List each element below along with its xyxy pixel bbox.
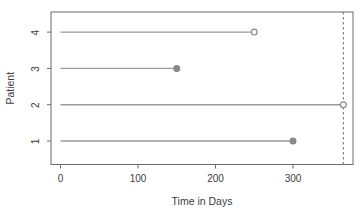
y-tick-label: 4 [30,29,41,35]
patient-marker-4-open [251,29,257,35]
x-tick-label: 200 [207,173,224,184]
x-axis-title: Time in Days [172,195,233,207]
patient-marker-2-open [340,102,346,108]
patient-marker-1-filled [290,138,296,144]
y-axis-title: Patient [4,72,16,105]
patient-marker-3-filled [174,66,180,72]
x-tick-label: 300 [285,173,302,184]
y-tick-label: 1 [30,138,41,144]
x-tick-label: 0 [58,173,64,184]
y-tick-label: 2 [30,102,41,108]
survival-plot-svg: 01002003001234Time in DaysPatient [0,0,362,217]
survival-plot-figure: 01002003001234Time in DaysPatient [0,0,362,217]
x-tick-label: 100 [130,173,147,184]
y-tick-label: 3 [30,66,41,72]
